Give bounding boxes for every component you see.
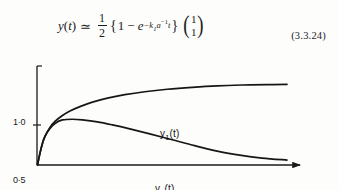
- y-axis-tick-label-1-0: 1·0: [13, 117, 25, 127]
- equation-minus-operator: −: [124, 19, 137, 32]
- brace-open: {: [109, 19, 118, 33]
- equation-column-vector: ( 1 1 ): [182, 13, 205, 38]
- equation-expression: y(t) ≃ 1 2 {1−e−k1a−1t} ( 1 1 ): [58, 12, 205, 39]
- figure-page: y(t) ≃ 1 2 {1−e−k1a−1t} ( 1 1 ) (3.3.24): [0, 0, 339, 190]
- brace-close: }: [170, 19, 179, 33]
- y-axis-tick-label-0-5: 0·5: [13, 175, 25, 185]
- figure-chart: 1·0 0·5 0 y1(t) y2(t) interaction time: [0, 55, 339, 190]
- curve-label-y1-suffix: (t): [170, 128, 180, 139]
- equation-number: (3.3.24): [291, 30, 326, 41]
- equation-exponent: −k1a−1t: [143, 22, 170, 29]
- curve-y1: [38, 84, 288, 165]
- curve-label-y1: y1(t): [160, 128, 180, 139]
- curve-label-y2-suffix: (t): [165, 183, 175, 190]
- equation-fraction-one-half: 1 2: [97, 12, 107, 39]
- column-vector-entry-1: 1: [191, 13, 197, 26]
- curve-y2: [38, 119, 288, 165]
- column-vector-entry-2: 1: [191, 26, 197, 39]
- equation-block: y(t) ≃ 1 2 {1−e−k1a−1t} ( 1 1 ) (3.3.24): [0, 8, 339, 54]
- column-vector-paren-left: (: [183, 15, 189, 35]
- column-vector-entries: 1 1: [191, 13, 197, 38]
- fraction-numerator: 1: [97, 12, 107, 25]
- exponent-a-power: −1: [161, 18, 168, 25]
- fraction-denominator: 2: [97, 26, 107, 39]
- plot-canvas: [0, 55, 339, 190]
- equation-relation-symbol: ≃: [76, 20, 95, 33]
- column-vector-paren-right: ): [198, 15, 204, 35]
- curve-label-y2: y2(t): [155, 183, 175, 190]
